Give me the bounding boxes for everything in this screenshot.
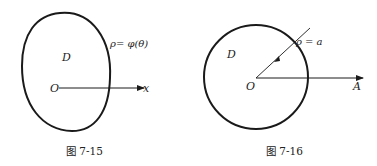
axis-label-x: x — [143, 82, 150, 95]
origin-label-o: O — [50, 82, 59, 95]
origin-label-o: O — [246, 80, 255, 93]
region-label-d: D — [226, 48, 236, 61]
curve-equation-label: ρ= φ(θ) — [109, 38, 148, 49]
region-label-d: D — [61, 51, 71, 64]
axis-label-a: A — [352, 80, 361, 93]
figure-7-16: D O A ρ = a 图 7-16 — [204, 25, 363, 157]
figure-canvas: D O x ρ= φ(θ) 图 7-15 D O A ρ = a 图 7-16 — [0, 0, 377, 166]
caption-7-16: 图 7-16 — [266, 145, 303, 157]
caption-7-15: 图 7-15 — [66, 145, 103, 157]
figure-7-15: D O x ρ= φ(θ) 图 7-15 — [22, 13, 150, 157]
circle-boundary — [204, 25, 308, 129]
closed-curve — [22, 13, 110, 131]
curve-equation-label: ρ = a — [295, 36, 323, 47]
ray-direction-arrow — [274, 56, 280, 62]
